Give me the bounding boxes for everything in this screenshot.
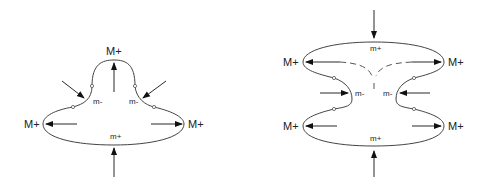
label-waist-right-mminus: m- — [383, 90, 392, 98]
label-top-left-Mplus: M+ — [283, 57, 299, 68]
right-shape-outline — [303, 42, 444, 146]
label-left-Mplus: M+ — [24, 119, 40, 130]
arrow-diag-right — [143, 81, 166, 98]
label-top-Mplus: M+ — [106, 46, 122, 57]
label-bottom-right-Mplus: M+ — [448, 121, 464, 132]
label-inner-left-mminus: m- — [93, 98, 102, 106]
left-shape-inflection-points — [71, 84, 155, 108]
left-shape-arrows — [46, 63, 182, 177]
arrow-diag-left — [62, 81, 84, 98]
label-right-Mplus: M+ — [188, 119, 204, 130]
label-bottom-mplus: m+ — [110, 133, 121, 141]
label-bottom-mplus: m+ — [370, 135, 381, 143]
right-shape-arrows — [306, 10, 441, 177]
diagram-canvas — [0, 0, 487, 192]
right-shape-dashed-split — [340, 62, 412, 92]
label-bottom-left-Mplus: M+ — [283, 121, 299, 132]
label-inner-right-mminus: m- — [129, 98, 138, 106]
label-top-right-Mplus: M+ — [448, 57, 464, 68]
label-top-mplus: m+ — [370, 45, 381, 53]
label-waist-left-mminus: m- — [355, 90, 364, 98]
right-shape-inflection-points — [332, 76, 415, 110]
